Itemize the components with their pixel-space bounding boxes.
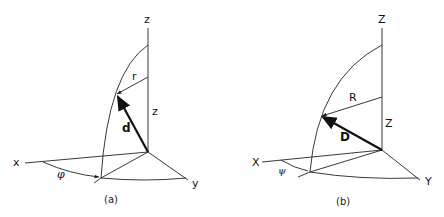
angle-label-b: ψ bbox=[278, 166, 286, 176]
height-label-b: Z bbox=[385, 118, 393, 129]
axis-label-y-b: Y bbox=[425, 176, 432, 187]
vector-label-a: d bbox=[122, 122, 131, 134]
height-label-a: z bbox=[152, 106, 158, 117]
axis-label-y-a: y bbox=[192, 178, 199, 189]
angle-label-a: φ bbox=[57, 169, 65, 180]
x-axis-b bbox=[262, 150, 382, 162]
axis-label-z-b: Z bbox=[378, 14, 386, 25]
x-axis-a bbox=[25, 152, 148, 163]
caption-a: (a) bbox=[104, 194, 118, 205]
caption-b: (b) bbox=[336, 196, 350, 207]
vector-label-b: D bbox=[340, 131, 350, 143]
radius-label-b: R bbox=[349, 92, 357, 103]
y-axis-b bbox=[382, 150, 420, 180]
tick-b bbox=[298, 172, 310, 177]
diagram-b bbox=[262, 28, 420, 180]
base-arc-a bbox=[101, 178, 186, 180]
diagram-a bbox=[25, 28, 188, 183]
d-vector-b bbox=[323, 117, 382, 150]
tick-a bbox=[94, 178, 101, 183]
base-arc-b bbox=[310, 172, 418, 178]
coordinate-diagrams bbox=[0, 0, 444, 217]
axis-label-x-a: x bbox=[13, 157, 20, 168]
meridian-arc-a bbox=[101, 45, 148, 178]
phi-arc-a bbox=[43, 162, 99, 177]
radius-label-a: r bbox=[132, 71, 137, 82]
axis-label-x-b: X bbox=[252, 157, 260, 168]
y-axis-a bbox=[148, 152, 188, 180]
axis-label-z-a: z bbox=[144, 14, 150, 25]
